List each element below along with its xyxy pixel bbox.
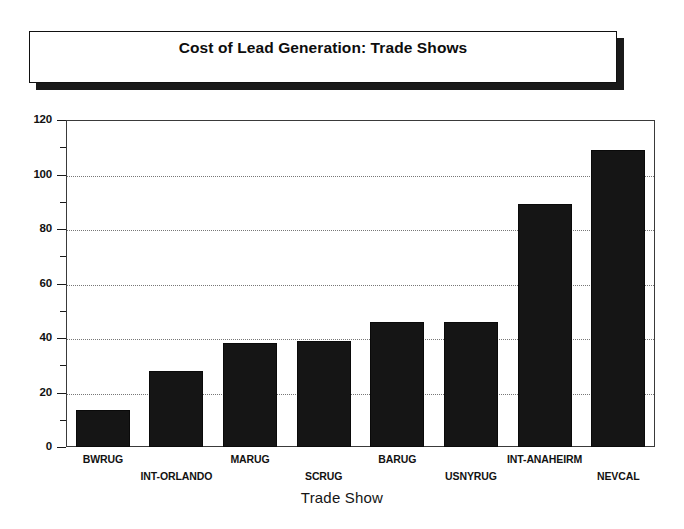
bar [444, 322, 498, 447]
y-tick-0 [57, 447, 66, 448]
y-tick-100 [57, 175, 66, 176]
y-tick-40 [57, 338, 66, 339]
x-tick-label: NEVCAL [597, 470, 640, 482]
x-tick-label: BARUG [378, 453, 416, 465]
x-axis-title: Trade Show [0, 489, 684, 506]
y-tick-label-20: 20 [12, 386, 52, 398]
y-tick-label-120: 120 [12, 113, 52, 125]
y-tick-60 [57, 284, 66, 285]
y-tick-120 [57, 120, 66, 121]
bars-layer [66, 120, 655, 447]
y-tick-20 [57, 393, 66, 394]
x-tick-label: MARUG [230, 453, 269, 465]
bar [297, 341, 351, 447]
bar [591, 150, 645, 447]
y-tick-label-40: 40 [12, 331, 52, 343]
x-tick-label: SCRUG [305, 470, 342, 482]
bar [518, 204, 572, 447]
y-tick-label-0: 0 [12, 440, 52, 452]
bar-chart: 020406080100120 BWRUGINT-ORLANDOMARUGSCR… [0, 0, 684, 529]
x-tick-label: INT-ORLANDO [141, 470, 213, 482]
y-tick-label-80: 80 [12, 222, 52, 234]
bar [149, 371, 203, 447]
y-tick-label-60: 60 [12, 277, 52, 289]
bar [223, 343, 277, 447]
x-tick-label: INT-ANAHEIRM [507, 453, 582, 465]
y-tick-80 [57, 229, 66, 230]
y-tick-label-100: 100 [12, 168, 52, 180]
bar [370, 322, 424, 447]
x-tick-label: USNYRUG [445, 470, 497, 482]
bar [76, 410, 130, 447]
x-tick-label: BWRUG [83, 453, 123, 465]
